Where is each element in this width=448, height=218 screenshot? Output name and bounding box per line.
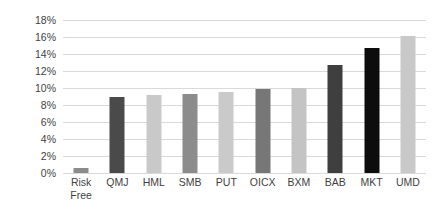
x-axis-tick-label: QMJ bbox=[99, 176, 135, 189]
bar[interactable] bbox=[183, 94, 198, 173]
bar-slot bbox=[390, 20, 426, 173]
bar-slot bbox=[172, 20, 208, 173]
x-axis-tick-label: MKT bbox=[353, 176, 389, 189]
y-axis-tick-label: 0% bbox=[22, 168, 56, 179]
bar-slot bbox=[99, 20, 135, 173]
y-axis-tick-label: 10% bbox=[22, 83, 56, 94]
x-axis-tick-labels: Risk FreeQMJHMLSMBPUTOICXBXMBABMKTUMD bbox=[63, 176, 426, 216]
bar-slot bbox=[208, 20, 244, 173]
bar-slot bbox=[353, 20, 389, 173]
y-axis-tick-label: 16% bbox=[22, 32, 56, 43]
bar-slot bbox=[317, 20, 353, 173]
x-axis-tick-label: Risk Free bbox=[63, 176, 99, 202]
bar[interactable] bbox=[219, 92, 234, 173]
y-axis-tick-label: 2% bbox=[22, 151, 56, 162]
x-axis-tick-label: PUT bbox=[208, 176, 244, 189]
bar[interactable] bbox=[364, 48, 379, 173]
gridline bbox=[63, 173, 426, 174]
bar[interactable] bbox=[328, 65, 343, 173]
bar[interactable] bbox=[291, 88, 306, 173]
x-axis-tick-label: HML bbox=[136, 176, 172, 189]
bar-slot bbox=[136, 20, 172, 173]
y-axis-tick-label: 8% bbox=[22, 100, 56, 111]
bar[interactable] bbox=[146, 95, 161, 173]
bar[interactable] bbox=[74, 168, 89, 173]
bar[interactable] bbox=[110, 97, 125, 174]
x-axis-tick-label: BAB bbox=[317, 176, 353, 189]
bar[interactable] bbox=[255, 89, 270, 173]
x-axis-tick-label: UMD bbox=[390, 176, 426, 189]
y-axis-tick-labels: 0%2%4%6%8%10%12%14%16%18% bbox=[20, 20, 56, 173]
x-axis-tick-label: BXM bbox=[281, 176, 317, 189]
bar[interactable] bbox=[400, 36, 415, 173]
bar-chart: 0%2%4%6%8%10%12%14%16%18% Risk FreeQMJHM… bbox=[0, 0, 448, 218]
y-axis-tick-label: 18% bbox=[22, 15, 56, 26]
bar-slot bbox=[245, 20, 281, 173]
y-axis-tick-label: 6% bbox=[22, 117, 56, 128]
bar-slot bbox=[63, 20, 99, 173]
bars-layer bbox=[63, 20, 426, 173]
x-axis-tick-label: OICX bbox=[245, 176, 281, 189]
y-axis-tick-label: 4% bbox=[22, 134, 56, 145]
x-axis-tick-label: SMB bbox=[172, 176, 208, 189]
y-axis-tick-label: 14% bbox=[22, 49, 56, 60]
y-axis-tick-label: 12% bbox=[22, 66, 56, 77]
bar-slot bbox=[281, 20, 317, 173]
